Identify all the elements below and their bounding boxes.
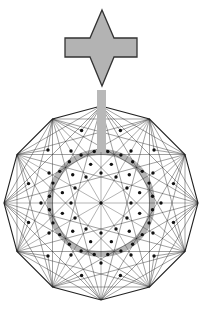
stem-bar xyxy=(97,90,106,152)
graph-figure xyxy=(0,0,200,310)
diagram-figure xyxy=(0,0,200,310)
star-arrow-icon xyxy=(65,10,137,86)
